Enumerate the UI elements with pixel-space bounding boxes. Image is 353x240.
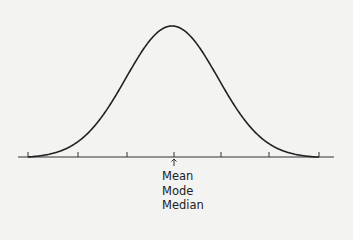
normal-curve [28, 26, 319, 157]
label-mode: Mode [162, 184, 204, 199]
axis-ticks [28, 152, 319, 157]
center-arrow-icon [172, 159, 177, 166]
label-median: Median [162, 198, 204, 213]
label-mean: Mean [162, 169, 204, 184]
central-tendency-labels: Mean Mode Median [162, 169, 204, 213]
